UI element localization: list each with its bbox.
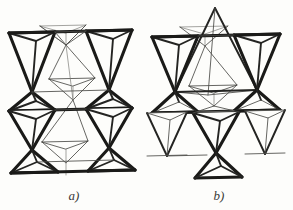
structure-panel-b: b) (145, 0, 293, 210)
figure-root: a) (0, 0, 293, 210)
panel-b-label: b) (145, 188, 293, 204)
structure-panel-a: a) (0, 0, 148, 210)
second-layer-tetrahedra-a (9, 90, 132, 111)
top-layer-tetrahedra-b (152, 34, 280, 92)
panel-a-label: a) (0, 188, 148, 204)
middle-layer-tetrahedra-b (152, 90, 280, 113)
third-layer-tetrahedra-a (9, 108, 132, 150)
central-bottom-bowtie-b (193, 112, 242, 178)
structure-a-wireframe (0, 0, 148, 200)
bottom-layer-tetrahedra-a (11, 148, 135, 173)
structure-b-wireframe (145, 0, 293, 200)
